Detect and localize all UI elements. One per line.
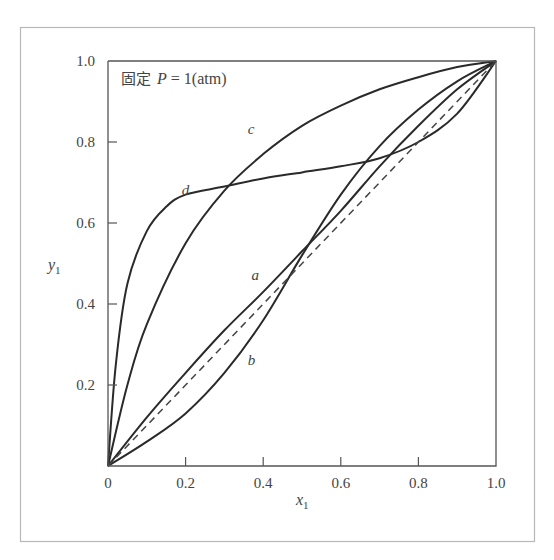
annotation-value: 1(atm) — [184, 70, 227, 88]
curve-label-b: b — [248, 352, 256, 368]
outer-frame — [21, 28, 535, 542]
y-axis-label: y1 — [46, 256, 61, 276]
x-tick-label: 0 — [104, 475, 112, 491]
diagonal-reference-line — [108, 61, 496, 466]
y-tick-label: 0.2 — [76, 377, 95, 393]
y-tick-label: 0.6 — [76, 215, 95, 231]
vle-xy-diagram: 00.20.40.60.81.00.20.40.60.81.0 固定P = 1(… — [0, 0, 554, 560]
annotation-prefix: 固定 — [121, 70, 151, 88]
x-tick-label: 0.4 — [254, 475, 273, 491]
x-tick-label: 1.0 — [487, 475, 506, 491]
curve-label-a: a — [252, 267, 260, 283]
curve-label-c: c — [248, 121, 255, 137]
x-tick-label: 0.6 — [331, 475, 350, 491]
curve-label-d: d — [182, 182, 190, 198]
pressure-annotation: 固定P = 1(atm) — [121, 70, 226, 88]
x-tick-label: 0.2 — [176, 475, 195, 491]
annotation-equals: = — [167, 70, 184, 87]
y-tick-label: 0.4 — [76, 296, 95, 312]
y-tick-label: 0.8 — [76, 134, 95, 150]
annotation-variable: P — [156, 70, 167, 87]
plot-area — [108, 61, 496, 466]
y-tick-label: 1.0 — [76, 53, 95, 69]
curve-labels: abcd — [182, 121, 259, 368]
x-tick-label: 0.8 — [409, 475, 428, 491]
x-axis-label: x1 — [295, 491, 309, 511]
